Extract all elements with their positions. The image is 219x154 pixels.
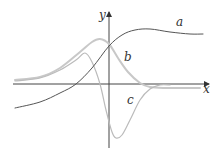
curve-b xyxy=(15,39,200,88)
curve-c xyxy=(15,53,170,138)
x-axis-label: x xyxy=(203,82,210,96)
curve-c-label: c xyxy=(127,93,134,107)
y-axis-label: y xyxy=(98,8,106,22)
function-derivative-graph: a b c x y xyxy=(0,0,219,154)
curve-b-label: b xyxy=(124,50,132,64)
curve-a-label: a xyxy=(176,15,183,29)
